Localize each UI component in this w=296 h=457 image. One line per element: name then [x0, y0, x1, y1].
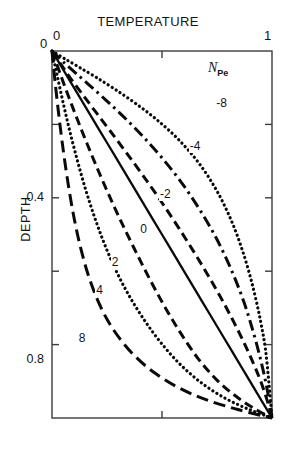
curve-label-0: 0 — [139, 222, 148, 236]
plot-area — [0, 0, 296, 457]
curve-label-2: 2 — [111, 255, 120, 269]
curve-label-8: 8 — [78, 331, 87, 345]
curve-label-neg2: -2 — [159, 187, 172, 201]
chart-figure: TEMPERATURE 0 0 1 0.4 0.8 DEPTH NPe -8-4… — [0, 0, 296, 457]
curve-peclet-0 — [52, 51, 272, 418]
curve-label-neg4: -4 — [189, 139, 202, 153]
curve-label-neg8: -8 — [215, 96, 228, 110]
data-curves — [52, 51, 272, 418]
curve-label-4: 4 — [95, 283, 104, 297]
